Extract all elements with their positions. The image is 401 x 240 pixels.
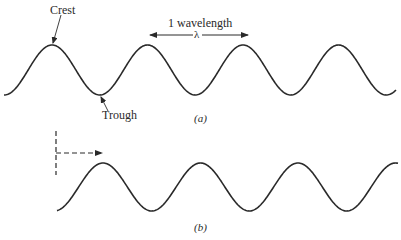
wave-b (57, 163, 398, 211)
panel-b-caption: (b) (194, 222, 207, 233)
panel-a-caption: (a) (194, 113, 207, 124)
wavelength-label: 1 wavelength (168, 17, 232, 29)
trough-label: Trough (102, 109, 137, 121)
wave-a (4, 45, 396, 95)
crest-pointer-arrow (53, 15, 61, 43)
lambda-symbol: λ (194, 29, 199, 40)
crest-label: Crest (50, 4, 75, 16)
